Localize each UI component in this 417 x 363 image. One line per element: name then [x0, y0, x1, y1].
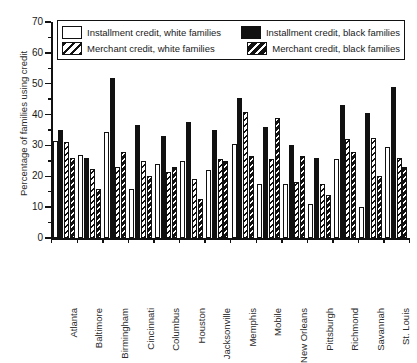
bar-mw — [141, 161, 146, 238]
bar-ib — [212, 130, 217, 238]
bar-iw — [385, 147, 390, 238]
bar-iw — [232, 144, 237, 238]
x-tick-label: Savannah — [375, 308, 386, 351]
bar-iw — [206, 170, 211, 238]
y-tick-label: 40 — [32, 110, 43, 120]
bar-iw — [359, 207, 364, 238]
bar-mw — [243, 112, 248, 239]
legend-swatch-merchant-black-icon — [247, 42, 267, 55]
bar-mb — [402, 167, 407, 238]
bar-mw — [115, 167, 120, 238]
bar-mw — [320, 184, 325, 238]
x-tick-label: Atlanta — [68, 308, 79, 338]
y-tick-label: 10 — [32, 202, 43, 212]
x-axis-tick-labels: AtlantaBaltimoreBirminghamCincinnatiColu… — [51, 240, 409, 312]
bar-ib — [365, 113, 370, 238]
bar-mb — [70, 158, 75, 238]
legend-swatch-merchant-white-icon — [62, 42, 82, 55]
x-tick-label: Richmond — [349, 308, 360, 351]
bar-mw — [218, 159, 223, 238]
bar-mb — [326, 195, 331, 238]
bar-mb — [377, 176, 382, 238]
bar-iw — [257, 184, 262, 238]
y-tick-label: 70 — [32, 17, 43, 27]
bar-mb — [223, 161, 228, 238]
bar-ib — [135, 125, 140, 238]
bar-iw — [78, 155, 83, 238]
legend-swatch-installment-white-icon — [62, 26, 82, 39]
x-tick-label: New Orleans — [298, 308, 309, 363]
bar-ib — [110, 78, 115, 238]
bar-mb — [147, 176, 152, 238]
x-tick-label: Baltimore — [93, 308, 104, 348]
bar-mw — [397, 158, 402, 238]
chart-legend: Installment credit, white families Insta… — [57, 20, 405, 60]
bar-ib — [314, 158, 319, 238]
bar-ib — [84, 158, 89, 238]
bar-ib — [263, 127, 268, 238]
bar-iw — [129, 189, 134, 238]
bar-iw — [104, 132, 109, 238]
bar-ib — [186, 122, 191, 238]
bar-mb — [351, 152, 356, 238]
x-tick-label: Columbus — [170, 308, 181, 351]
x-tick-label: St. Louis — [400, 308, 411, 345]
legend-swatch-installment-black-icon — [241, 26, 261, 39]
x-tick-label: Birmingham — [119, 308, 130, 359]
bar-mw — [371, 138, 376, 238]
bar-ib — [237, 98, 242, 238]
y-tick-label: 20 — [32, 171, 43, 181]
y-axis-title: Percentage of families using credit — [18, 24, 29, 224]
x-tick — [409, 238, 410, 243]
legend-row: Installment credit, white families Insta… — [62, 24, 400, 40]
bar-iw — [53, 141, 58, 238]
bar-iw — [308, 204, 313, 238]
bar-mw — [64, 142, 69, 238]
legend-item-merchant-black: Merchant credit, black families — [247, 42, 400, 55]
x-tick-label: Pittsburgh — [324, 308, 335, 351]
bar-iw — [180, 161, 185, 238]
bar-mb — [198, 199, 203, 238]
x-tick-label: Jacksonville — [221, 308, 232, 359]
legend-item-merchant-white: Merchant credit, white families — [62, 42, 247, 55]
legend-item-installment-black: Installment credit, black families — [241, 26, 400, 39]
bar-ib — [340, 105, 345, 238]
bar-ib — [391, 87, 396, 238]
x-tick-label: Houston — [196, 308, 207, 343]
bar-mb — [249, 156, 254, 238]
bar-mw — [90, 169, 95, 238]
y-tick-label: 50 — [32, 79, 43, 89]
bar-ib — [289, 145, 294, 238]
bar-iw — [155, 164, 160, 238]
bar-mw — [294, 182, 299, 238]
bar-mw — [192, 179, 197, 238]
x-tick-label: Mobile — [272, 308, 283, 336]
legend-label: Merchant credit, black families — [272, 43, 400, 54]
y-tick-label: 30 — [32, 140, 43, 150]
y-tick-label: 60 — [32, 48, 43, 58]
bar-iw — [283, 184, 288, 238]
legend-label: Installment credit, white families — [87, 27, 221, 38]
bar-mb — [96, 189, 101, 238]
bar-mw — [269, 159, 274, 238]
legend-row: Merchant credit, white families Merchant… — [62, 40, 400, 56]
legend-label: Merchant credit, white families — [87, 43, 215, 54]
bar-ib — [58, 130, 63, 238]
x-tick-label: Cincinnati — [145, 308, 156, 350]
legend-item-installment-white: Installment credit, white families — [62, 26, 241, 39]
bar-mw — [166, 172, 171, 238]
bar-mb — [121, 152, 126, 238]
bar-mb — [300, 156, 305, 238]
bar-mw — [345, 139, 350, 238]
x-tick-label: Memphis — [247, 308, 258, 347]
legend-label: Installment credit, black families — [266, 27, 400, 38]
bar-mb — [172, 167, 177, 238]
bar-iw — [334, 159, 339, 238]
y-tick-label: 0 — [37, 233, 43, 243]
bar-mb — [275, 118, 280, 238]
bar-ib — [161, 136, 166, 238]
